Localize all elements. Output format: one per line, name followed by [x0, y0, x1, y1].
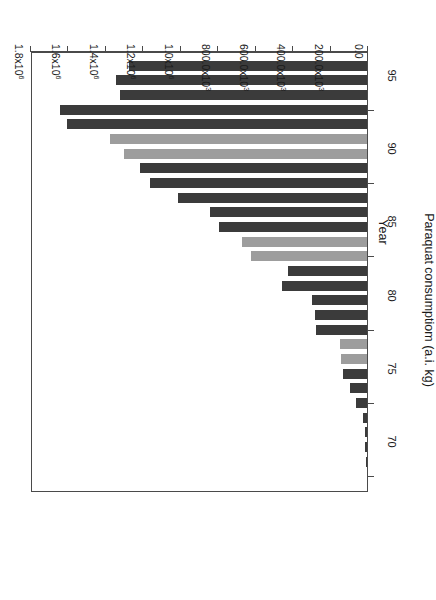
bar-73 [365, 427, 367, 437]
bar-71 [366, 457, 367, 467]
value-tick-5 [180, 46, 181, 52]
bar-72 [365, 442, 367, 452]
bar-79 [340, 339, 367, 349]
year-tick-label-70: 70 [386, 427, 397, 457]
value-tick-4 [217, 46, 218, 52]
year-tick-90 [368, 183, 374, 184]
value-tick-1 [330, 46, 331, 52]
bar-75 [356, 398, 367, 408]
year-tick-label-95: 95 [386, 60, 397, 90]
value-tick-label-600000: 600.0x103 [237, 44, 252, 134]
year-tick-75 [368, 403, 374, 404]
bar-86 [242, 237, 367, 247]
value-tick-label-200000: 200.0x103 [312, 44, 327, 134]
year-tick-80 [368, 330, 374, 331]
value-tick-7 [105, 46, 106, 52]
bar-76 [351, 383, 368, 393]
year-tick-95 [368, 110, 374, 111]
value-tick-3 [255, 46, 256, 52]
year-tick-label-90: 90 [386, 134, 397, 164]
value-axis-title: Paraquat consumptiom (a.i. kg) [422, 170, 436, 430]
value-tick-label-1800000: 1.8x106 [13, 44, 28, 134]
bar-89 [178, 193, 367, 203]
bar-88 [210, 207, 367, 217]
value-tick-9 [30, 46, 31, 52]
chart-figure: 0.0200.0x103400.0x103600.0x103800.0x1031… [0, 0, 436, 600]
value-tick-label-800000: 800.0x103 [200, 44, 215, 134]
bar-87 [219, 222, 367, 232]
category-axis-ticks [368, 52, 376, 492]
value-tick-label-1200000: 1.2x106 [125, 44, 140, 134]
value-tick-label-400000: 400.0x103 [275, 44, 290, 134]
year-tick-70 [368, 476, 374, 477]
category-axis-title: Year [376, 192, 390, 272]
bar-92 [124, 149, 367, 159]
value-tick-label-1000000: 1.0x106 [162, 44, 177, 134]
bar-77 [343, 369, 367, 379]
bar-74 [363, 413, 367, 423]
bar-80 [317, 325, 368, 335]
bar-82 [312, 295, 367, 305]
value-tick-label-1400000: 1.4x106 [87, 44, 102, 134]
year-tick-85 [368, 256, 374, 257]
bar-78 [341, 354, 367, 364]
year-tick-label-75: 75 [386, 354, 397, 384]
bar-85 [251, 251, 367, 261]
value-tick-8 [67, 46, 68, 52]
value-tick-2 [292, 46, 293, 52]
year-tick-label-80: 80 [386, 280, 397, 310]
bar-84 [288, 266, 367, 276]
bar-91 [141, 163, 368, 173]
value-tick-label-1600000: 1.6x106 [50, 44, 65, 134]
bar-90 [150, 178, 367, 188]
value-tick-label-0: 0.0 [353, 44, 364, 134]
bar-81 [315, 310, 367, 320]
value-tick-6 [142, 46, 143, 52]
bar-93 [111, 134, 368, 144]
bar-83 [282, 281, 367, 291]
